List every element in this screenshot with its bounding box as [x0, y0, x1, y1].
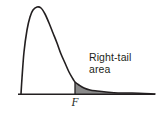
x-axis-tick-label-f: F — [66, 96, 84, 109]
annotation-line-1: Right-tail — [89, 51, 131, 63]
right-tail-area-annotation: Right-tail area — [89, 51, 131, 75]
annotation-line-2: area — [89, 63, 131, 75]
density-curve — [21, 7, 155, 94]
right-tail-area-figure: Right-tail area F — [0, 0, 162, 118]
